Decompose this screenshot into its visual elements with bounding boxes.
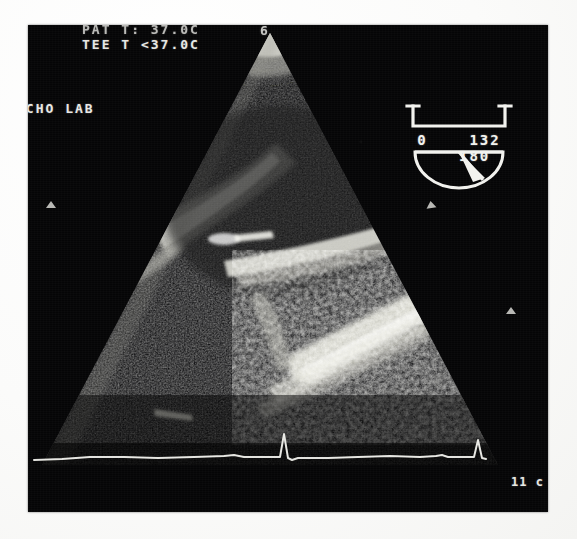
probe-temperature-label: TEE T <37.0C <box>82 37 200 52</box>
depth-caliper-right-icon <box>426 200 437 208</box>
angle-max-label: 180 <box>459 148 490 164</box>
depth-caliper-left-icon <box>46 201 56 208</box>
probe-angle-indicator[interactable]: 0 132 180 <box>403 100 515 190</box>
depth-scale-label: 11 c <box>511 475 544 489</box>
ultrasound-sector-fan <box>28 25 548 512</box>
ecg-trace <box>28 422 548 474</box>
patient-temperature-label: PAT T: 37.0C <box>82 25 200 37</box>
angle-current-label: 132 <box>469 132 500 148</box>
institution-label: ECHO LAB <box>28 101 95 116</box>
film-grain-overlay <box>28 25 548 512</box>
frame-index-glyph: 6 <box>260 25 270 38</box>
depth-caliper-edge-icon <box>506 307 516 314</box>
probe-angle-values: 0 132 180 <box>403 132 515 164</box>
ultrasound-image-frame: PAT T: 37.0C TEE T <37.0C ECHO LAB 6 11 … <box>28 25 548 512</box>
scanned-page-background: PAT T: 37.0C TEE T <37.0C ECHO LAB 6 11 … <box>0 0 577 539</box>
angle-min-label: 0 <box>417 132 427 148</box>
